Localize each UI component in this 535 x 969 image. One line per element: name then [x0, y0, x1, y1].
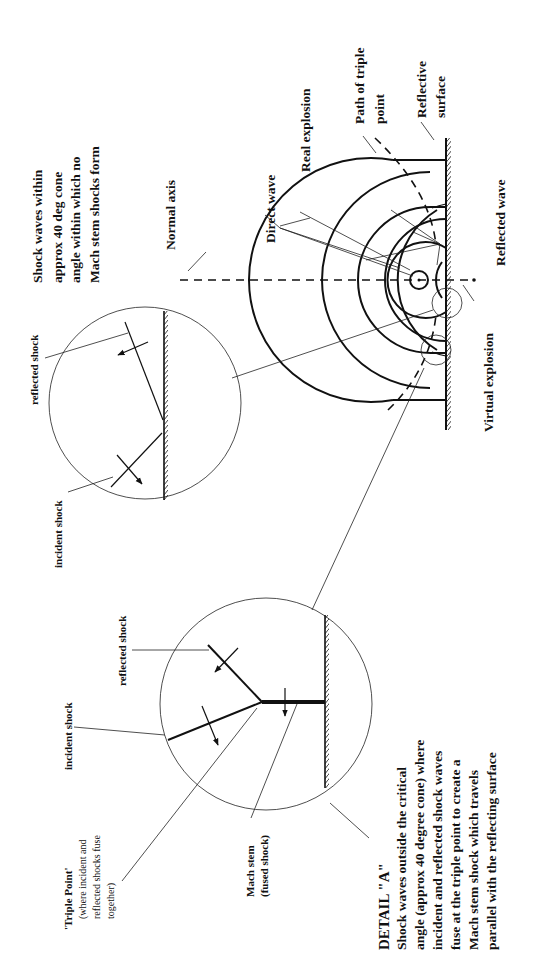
virtual-explosion-point — [472, 278, 476, 282]
main-diagram — [180, 122, 476, 610]
svg-text:approx 40 deg cone: approx 40 deg cone — [50, 172, 65, 283]
svg-text:DETAIL "A": DETAIL "A" — [376, 863, 392, 950]
upper-reflected-shock-label: reflected shock — [28, 334, 40, 405]
svg-text:'Triple Point': 'Triple Point' — [62, 868, 74, 930]
svg-text:surface: surface — [433, 76, 448, 118]
svg-text:(fused shock): (fused shock) — [258, 835, 271, 897]
reflected-wave-label: Reflected wave — [493, 179, 508, 266]
svg-text:together): together) — [105, 883, 117, 919]
svg-text:point: point — [372, 93, 387, 124]
svg-text:Mach stem: Mach stem — [244, 845, 256, 897]
svg-text:reflected shocks fuse: reflected shocks fuse — [91, 835, 102, 919]
reflective-surface-label: Reflective surface — [414, 61, 448, 118]
svg-text:Path of triple: Path of triple — [352, 48, 367, 125]
svg-text:Shock waves within: Shock waves within — [30, 169, 45, 283]
triple-point-label: 'Triple Point' (where incident and refle… — [62, 835, 117, 930]
path-of-triple-point-label: Path of triple point — [352, 48, 387, 125]
svg-text:fuse at the triple point to c: fuse at the triple point to create a — [448, 759, 463, 950]
svg-text:incident and reflected shock w: incident and reflected shock waves — [430, 751, 445, 950]
virtual-explosion-label: Virtual explosion — [481, 333, 496, 432]
cone-note: Shock waves within approx 40 deg cone an… — [30, 145, 102, 283]
mach-stem-label: Mach stem (fused shock) — [244, 835, 271, 897]
detail-a-caption: DETAIL "A" Shock waves outside the criti… — [376, 740, 499, 950]
svg-text:(where incident and: (where incident and — [77, 840, 89, 919]
upper-incident-shock-label: incident shock — [52, 500, 64, 568]
normal-axis-label: Normal axis — [163, 180, 178, 250]
svg-text:parallel with the reflecting s: parallel with the reflecting surface — [484, 752, 499, 950]
real-explosion-label: Real explosion — [298, 88, 313, 172]
detail-upper-circle — [45, 307, 241, 500]
lower-reflected-shock-label: reflected shock — [116, 615, 128, 686]
svg-text:Mach stem shocks form: Mach stem shocks form — [87, 145, 102, 283]
svg-text:Shock waves outside the critic: Shock waves outside the critical — [394, 767, 409, 950]
blast-wave-diagram: Shock waves within approx 40 deg cone an… — [0, 0, 535, 969]
reflective-surface — [446, 138, 451, 430]
svg-text:angle within which no: angle within which no — [68, 156, 83, 283]
svg-text:Mach stem shock which travels: Mach stem shock which travels — [466, 770, 481, 950]
svg-text:Reflective: Reflective — [414, 61, 429, 118]
triple-point-path — [375, 138, 436, 245]
direct-wave-label: Direct wave — [263, 175, 278, 243]
svg-text:angle (approx 40 degree cone): angle (approx 40 degree cone) where — [412, 740, 427, 950]
lower-incident-shock-label: incident shock — [62, 702, 74, 770]
